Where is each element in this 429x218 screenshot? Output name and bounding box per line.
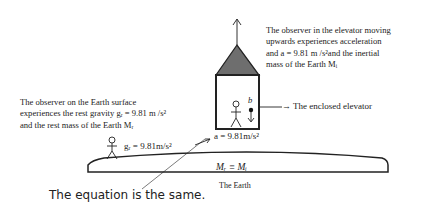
- earth-label: The Earth: [219, 180, 251, 191]
- enclosed-elevator-label: → The enclosed elevator: [282, 101, 372, 112]
- equation-caption: The equation is the same.: [49, 188, 205, 203]
- note-line: The observer in the elevator moving: [266, 25, 418, 36]
- mass-equivalence-label: Mᵣ ≡ Mᵢ: [216, 162, 247, 173]
- elevator-observer-note: The observer in the elevator moving upwa…: [266, 25, 418, 70]
- note-line: The observer on the Earth surface: [20, 97, 202, 108]
- ball-label: b: [248, 95, 252, 106]
- up-arrow-icon: [233, 19, 241, 45]
- note-line: and the rest mass of the Earth Mᵣ: [20, 120, 202, 131]
- small-arrow-icon: [195, 139, 210, 145]
- earth-observer-note: The observer on the Earth surface experi…: [20, 97, 202, 131]
- note-line: mass of the Earth Mᵢ: [266, 59, 418, 70]
- elevator-acceleration-label: a = 9.81m/s²: [214, 131, 259, 142]
- rest-gravity-label: gᵣ = 9.81m/s²: [124, 141, 172, 152]
- person-on-earth-icon: [107, 137, 117, 159]
- note-line: experiences the rest gravity gᵣ = 9.81 m…: [20, 108, 202, 119]
- note-line: and a = 9.81 m /s²and the inertial: [266, 48, 418, 59]
- note-line: upwards experiences acceleration: [266, 36, 418, 47]
- elevator-roof: [216, 45, 259, 75]
